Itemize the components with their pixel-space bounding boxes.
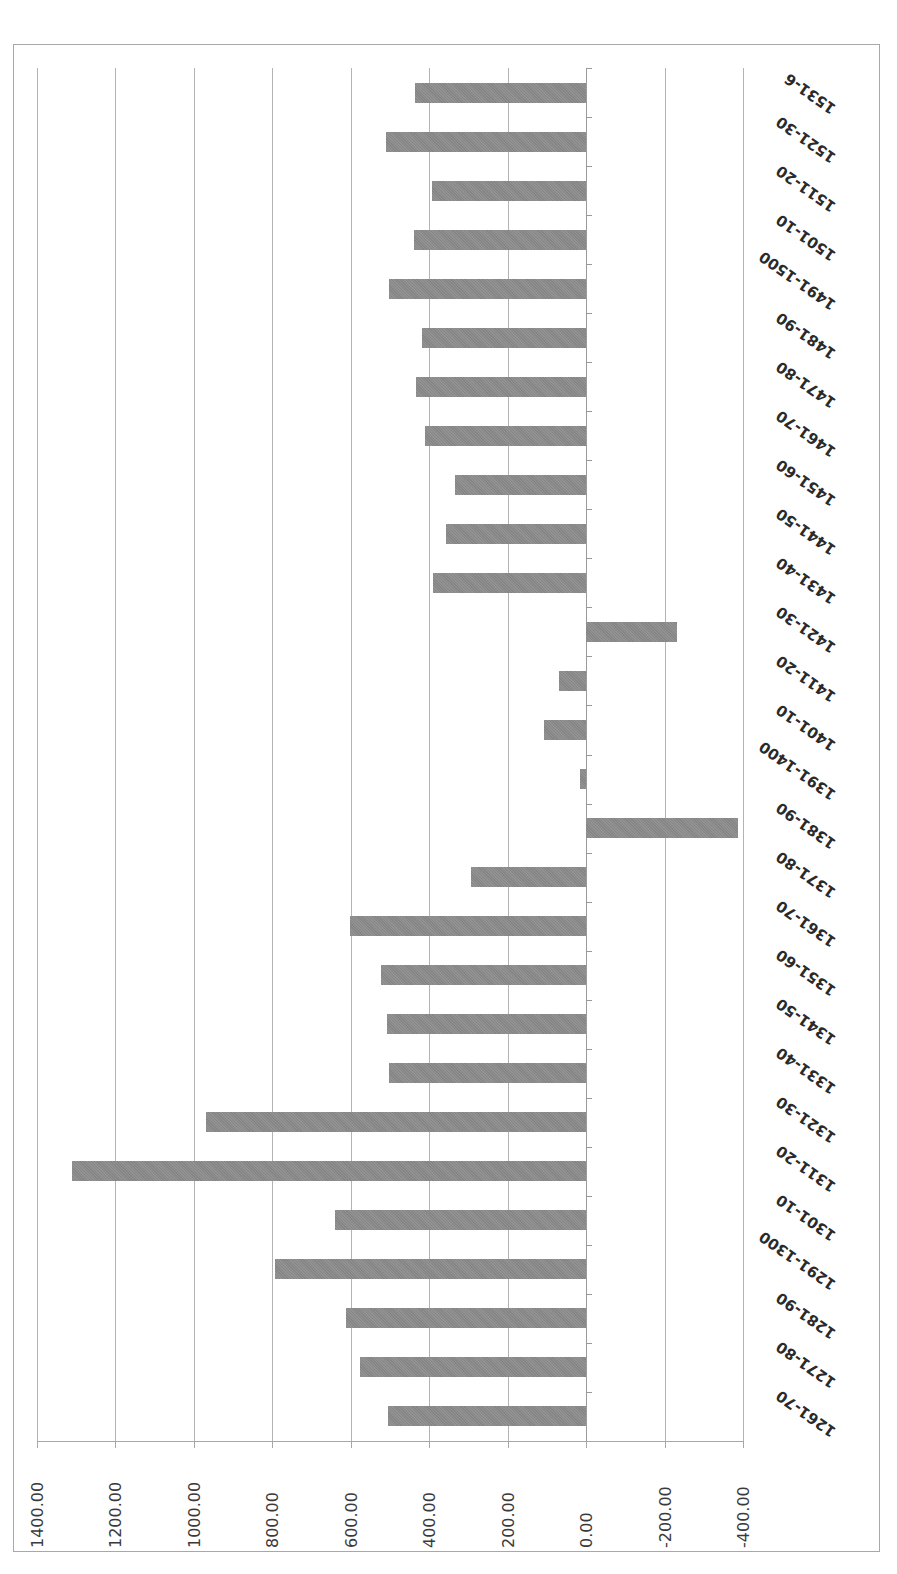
category-axis-tick bbox=[586, 656, 592, 657]
value-axis-tick bbox=[272, 1441, 273, 1448]
value-axis-tick bbox=[351, 1441, 352, 1448]
category-axis-tick bbox=[586, 1294, 592, 1295]
category-label: 1261-70 bbox=[770, 1406, 880, 1424]
value-axis-label: -400.00 bbox=[732, 1458, 754, 1548]
category-label: 1531-6 bbox=[770, 83, 880, 101]
category-label: 1441-50 bbox=[770, 524, 880, 542]
value-axis-tick bbox=[115, 1441, 116, 1448]
gridline bbox=[194, 68, 195, 1441]
category-axis-tick bbox=[586, 313, 592, 314]
category-label: 1521-30 bbox=[770, 132, 880, 150]
bar-1331-40 bbox=[389, 1063, 586, 1083]
value-axis-tick bbox=[665, 1441, 666, 1448]
category-label: 1371-80 bbox=[770, 867, 880, 885]
category-axis-tick bbox=[586, 117, 592, 118]
category-axis-tick bbox=[586, 607, 592, 608]
value-axis-line bbox=[37, 1441, 743, 1442]
bar-1481-90 bbox=[422, 328, 586, 348]
category-axis-tick bbox=[586, 509, 592, 510]
category-label: 1421-30 bbox=[770, 622, 880, 640]
category-label: 1401-10 bbox=[770, 720, 880, 738]
category-label: 1331-40 bbox=[770, 1063, 880, 1081]
bar-1411-20 bbox=[559, 671, 586, 691]
category-axis-tick bbox=[586, 951, 592, 952]
category-label: 1461-70 bbox=[770, 426, 880, 444]
category-label: 1281-90 bbox=[770, 1308, 880, 1326]
bar-1261-70 bbox=[388, 1406, 586, 1426]
category-label: 1491-1500 bbox=[770, 279, 880, 297]
bar-1351-60 bbox=[381, 965, 586, 985]
category-axis-tick bbox=[586, 166, 592, 167]
gridline bbox=[429, 68, 430, 1441]
category-label: 1321-30 bbox=[770, 1112, 880, 1130]
bar-1401-10 bbox=[544, 720, 586, 740]
category-label: 1411-20 bbox=[770, 671, 880, 689]
value-axis-label: 200.00 bbox=[497, 1458, 519, 1548]
category-axis-tick bbox=[586, 1196, 592, 1197]
category-axis-tick bbox=[586, 362, 592, 363]
value-axis-label: 400.00 bbox=[418, 1458, 440, 1548]
category-axis-tick bbox=[586, 215, 592, 216]
category-axis-tick bbox=[586, 853, 592, 854]
category-label: 1451-60 bbox=[770, 475, 880, 493]
category-label: 1391-1400 bbox=[770, 769, 880, 787]
value-axis-label: 0.00 bbox=[575, 1458, 597, 1548]
value-axis-tick bbox=[429, 1441, 430, 1448]
bar-1301-10 bbox=[335, 1210, 586, 1230]
bar-1441-50 bbox=[446, 524, 586, 544]
bar-1281-90 bbox=[346, 1308, 586, 1328]
bar-1451-60 bbox=[455, 475, 586, 495]
gridline bbox=[508, 68, 509, 1441]
category-label: 1271-80 bbox=[770, 1357, 880, 1375]
category-label: 1481-90 bbox=[770, 328, 880, 346]
bar-1291-1300 bbox=[275, 1259, 586, 1279]
bar-1531-6 bbox=[415, 83, 586, 103]
category-label: 1291-1300 bbox=[770, 1259, 880, 1277]
category-label: 1471-80 bbox=[770, 377, 880, 395]
bar-1521-30 bbox=[386, 132, 586, 152]
bar-1511-20 bbox=[432, 181, 586, 201]
category-axis-tick bbox=[586, 1245, 592, 1246]
bar-1461-70 bbox=[425, 426, 586, 446]
bar-1271-80 bbox=[360, 1357, 586, 1377]
category-label: 1501-10 bbox=[770, 230, 880, 248]
bar-1491-1500 bbox=[389, 279, 586, 299]
category-axis-tick bbox=[586, 705, 592, 706]
category-axis-tick bbox=[586, 902, 592, 903]
category-axis-tick bbox=[586, 1098, 592, 1099]
category-label: 1431-40 bbox=[770, 573, 880, 591]
bar-1321-30 bbox=[206, 1112, 586, 1132]
bar-1421-30 bbox=[586, 622, 677, 642]
category-axis-tick bbox=[586, 755, 592, 756]
category-axis-tick bbox=[586, 1392, 592, 1393]
value-axis-tick bbox=[194, 1441, 195, 1448]
category-axis-tick bbox=[586, 1147, 592, 1148]
gridline bbox=[665, 68, 666, 1441]
value-axis-label: -200.00 bbox=[654, 1458, 676, 1548]
bar-1431-40 bbox=[433, 573, 586, 593]
value-axis-label: 600.00 bbox=[340, 1458, 362, 1548]
category-axis-tick bbox=[586, 804, 592, 805]
category-label: 1361-70 bbox=[770, 916, 880, 934]
bar-1471-80 bbox=[416, 377, 586, 397]
category-label: 1311-20 bbox=[770, 1161, 880, 1179]
gridline bbox=[37, 68, 38, 1441]
category-label: 1301-10 bbox=[770, 1210, 880, 1228]
category-axis-tick bbox=[586, 1000, 592, 1001]
bar-1501-10 bbox=[414, 230, 587, 250]
gridline bbox=[115, 68, 116, 1441]
category-axis-tick bbox=[586, 558, 592, 559]
value-axis-label: 1000.00 bbox=[183, 1458, 205, 1548]
gridline bbox=[351, 68, 352, 1441]
category-axis-tick bbox=[586, 1343, 592, 1344]
bar-1361-70 bbox=[350, 916, 586, 936]
category-axis-tick bbox=[586, 411, 592, 412]
value-axis-tick bbox=[37, 1441, 38, 1448]
value-axis-label: 1200.00 bbox=[104, 1458, 126, 1548]
category-label: 1341-50 bbox=[770, 1014, 880, 1032]
category-label: 1351-60 bbox=[770, 965, 880, 983]
category-label: 1381-90 bbox=[770, 818, 880, 836]
value-axis-label: 1400.00 bbox=[26, 1458, 48, 1548]
value-axis-tick bbox=[508, 1441, 509, 1448]
bar-1341-50 bbox=[387, 1014, 586, 1034]
